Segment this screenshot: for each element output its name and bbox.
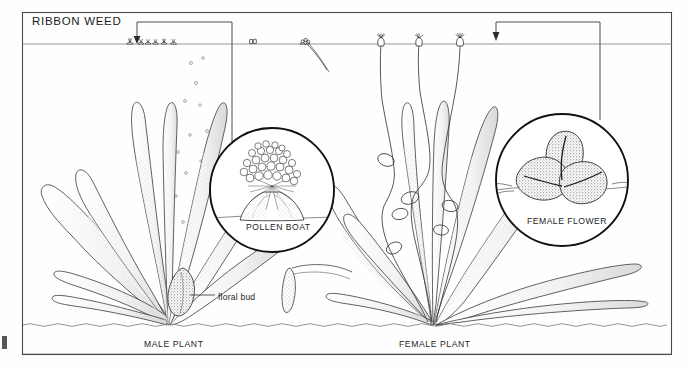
pollen-boat-label: POLLEN BOAT bbox=[246, 222, 311, 232]
female-plant-label: FEMALE PLANT bbox=[399, 339, 471, 349]
page-title: RIBBON WEED bbox=[32, 15, 122, 27]
male-plant-label: MALE PLANT bbox=[144, 339, 204, 349]
floral-bud-label: floral bud bbox=[218, 292, 255, 302]
ribbon-weed-illustration bbox=[0, 0, 690, 371]
drifting-pollen-boat bbox=[300, 38, 329, 72]
floating-pollen-boats bbox=[127, 38, 257, 44]
female-flower-label: FEMALE FLOWER bbox=[527, 216, 607, 226]
female-flower-detail-circle bbox=[494, 114, 630, 246]
seabed bbox=[23, 324, 671, 354]
ribbon-weed-figure: RIBBON WEED POLLEN BOAT FEMALE FLOWER fl… bbox=[0, 0, 690, 371]
pollen-boat-detail-circle bbox=[210, 128, 334, 252]
detached-floral-bud bbox=[282, 265, 352, 313]
